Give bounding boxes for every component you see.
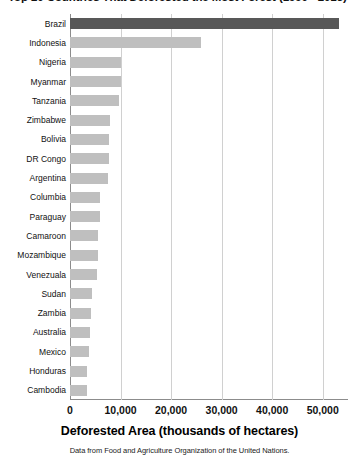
bar-row (70, 327, 348, 338)
bar-row (70, 288, 348, 299)
category-label-tanzania: Tanzania (0, 97, 66, 106)
bar-brazil (70, 18, 339, 29)
category-label-myanmar: Myanmar (0, 78, 66, 87)
bar-indonesia (70, 37, 201, 48)
source-note: Data from Food and Agriculture Organizat… (0, 446, 359, 455)
bar-zambia (70, 308, 91, 319)
category-label-australia: Australia (0, 328, 66, 337)
category-label-zambia: Zambia (0, 309, 66, 318)
category-label-honduras: Honduras (0, 367, 66, 376)
x-tick-label: 30,000 (206, 404, 238, 416)
bar-row (70, 37, 348, 48)
bar-row (70, 385, 348, 396)
bar-tanzania (70, 95, 119, 106)
bar-row (70, 230, 348, 241)
bar-row (70, 18, 348, 29)
category-label-venezuala: Venezuala (0, 271, 66, 280)
category-label-dr-congo: DR Congo (0, 155, 66, 164)
bar-myanmar (70, 76, 121, 87)
category-label-columbia: Columbia (0, 193, 66, 202)
bar-dr-congo (70, 153, 109, 164)
category-axis-labels: BrazilIndonesiaNigeriaMyanmarTanzaniaZim… (0, 14, 66, 400)
x-tick-label: 20,000 (155, 404, 187, 416)
bar-bolivia (70, 134, 109, 145)
bar-row (70, 269, 348, 280)
x-tick-label: 0 (67, 404, 73, 416)
bar-cambodia (70, 385, 87, 396)
bar-chart-figure: Top 20 Countries That Deforested the Mos… (0, 0, 359, 463)
category-label-cambodia: Cambodia (0, 386, 66, 395)
x-axis-title: Deforested Area (thousands of hectares) (0, 424, 359, 438)
bar-argentina (70, 173, 108, 184)
category-label-argentina: Argentina (0, 174, 66, 183)
plot-area (70, 14, 348, 400)
bar-row (70, 250, 348, 261)
bar-row (70, 134, 348, 145)
bar-row (70, 366, 348, 377)
category-label-nigeria: Nigeria (0, 58, 66, 67)
category-label-zimbabwe: Zimbabwe (0, 116, 66, 125)
bar-row (70, 173, 348, 184)
category-label-mozambique: Mozambique (0, 251, 66, 260)
category-label-brazil: Brazil (0, 20, 66, 29)
x-tick-label: 40,000 (256, 404, 288, 416)
bar-zimbabwe (70, 115, 110, 126)
bar-row (70, 76, 348, 87)
bar-row (70, 211, 348, 222)
bar-row (70, 308, 348, 319)
category-label-paraguay: Paraguay (0, 213, 66, 222)
category-label-camaroon: Camaroon (0, 232, 66, 241)
bar-row (70, 95, 348, 106)
x-tick-label: 10,000 (104, 404, 136, 416)
category-label-sudan: Sudan (0, 290, 66, 299)
bar-camaroon (70, 230, 98, 241)
bar-nigeria (70, 57, 121, 68)
bar-mozambique (70, 250, 98, 261)
x-tick-label: 50,000 (307, 404, 339, 416)
x-axis-tick-labels: 010,00020,00030,00040,00050,000 (0, 404, 359, 418)
bar-honduras (70, 366, 87, 377)
category-label-bolivia: Bolivia (0, 135, 66, 144)
bar-mexico (70, 346, 89, 357)
chart-title: Top 20 Countries That Deforested the Mos… (8, 0, 359, 5)
bar-sudan (70, 288, 92, 299)
bar-australia (70, 327, 90, 338)
bar-row (70, 192, 348, 203)
category-label-indonesia: Indonesia (0, 39, 66, 48)
bars-layer (70, 14, 348, 400)
bar-row (70, 57, 348, 68)
bar-venezuala (70, 269, 97, 280)
bar-paraguay (70, 211, 100, 222)
bar-row (70, 115, 348, 126)
bar-row (70, 153, 348, 164)
bar-row (70, 346, 348, 357)
bar-columbia (70, 192, 100, 203)
category-label-mexico: Mexico (0, 348, 66, 357)
